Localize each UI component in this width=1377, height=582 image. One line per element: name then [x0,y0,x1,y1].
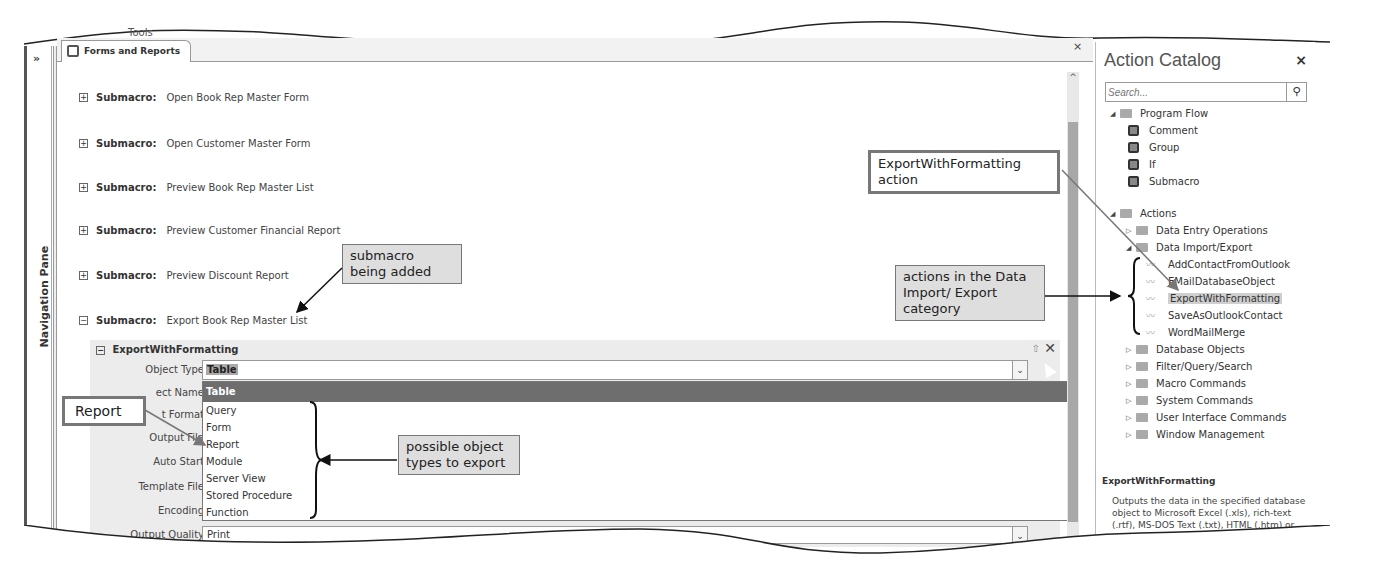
action-icon: 〰 [1146,262,1160,268]
tree-item-group[interactable]: Group [1128,142,1179,153]
search-icon[interactable]: ⚲ [1286,83,1306,101]
tree-item-if[interactable]: If [1128,159,1155,170]
folder-icon [1136,362,1148,371]
submacro-row[interactable]: + Submacro: Preview Book Rep Master List [79,182,314,193]
scrollbar-thumb[interactable] [1068,122,1078,522]
callout-possible-object-types: possible object types to export [398,435,520,475]
collapse-icon[interactable]: − [79,316,88,325]
vertical-scrollbar[interactable]: ^ [1067,72,1079,542]
object-type-dropdown-list[interactable]: Table Query Form Report Module Server Vi… [202,381,1068,521]
tree-item-submacro[interactable]: Submacro [1128,176,1199,187]
callout-submacro-being-added: submacro being added [342,244,462,284]
folder-icon [1136,379,1148,388]
dropdown-option-server-view[interactable]: Server View [203,470,1067,487]
expanded-triangle-icon[interactable]: ◢ [1126,244,1136,252]
tree-database-objects[interactable]: ▷ Database Objects [1126,344,1245,355]
collapsed-triangle-icon[interactable]: ▷ [1126,227,1136,235]
dropdown-option-report[interactable]: Report [203,436,1067,453]
submacro-name: Open Customer Master Form [166,138,310,149]
tree-program-flow[interactable]: ◢ Program Flow [1110,108,1208,119]
expanded-triangle-icon[interactable]: ◢ [1110,110,1120,118]
submacro-name: Preview Customer Financial Report [166,225,340,236]
navigation-pane-label[interactable]: Navigation Pane [38,258,51,348]
delete-action-icon[interactable]: ✕ [1044,340,1056,356]
tree-user-interface-commands[interactable]: ▷ User Interface Commands [1126,412,1287,423]
object-type-combo[interactable]: Table ⌄ [202,360,1028,380]
action-catalog-pane: Action Catalog × ⚲ ◢ Program Flow Commen… [1095,42,1315,542]
expand-icon[interactable]: + [79,93,88,102]
dropdown-option-stored-procedure[interactable]: Stored Procedure [203,487,1067,504]
dropdown-option-form[interactable]: Form [203,419,1067,436]
collapsed-triangle-icon[interactable]: ▷ [1126,363,1136,371]
tree-item-exportwithformatting[interactable]: 〰 ExportWithFormatting [1146,293,1282,304]
submacro-name: Export Book Rep Master List [166,315,307,326]
program-flow-icon [1128,159,1139,170]
expand-nav-pane-icon[interactable]: » [33,52,40,65]
output-quality-combo[interactable]: Print ⌄ [202,526,1028,544]
tree-item-emaildatabaseobject[interactable]: 〰 EMailDatabaseObject [1146,276,1275,287]
catalog-search-box[interactable]: ⚲ [1105,82,1307,102]
tab-forms-and-reports[interactable]: Forms and Reports [61,40,191,63]
folder-icon [1136,413,1148,422]
collapsed-triangle-icon[interactable]: ▷ [1126,346,1136,354]
collapsed-triangle-icon[interactable]: ▷ [1126,397,1136,405]
tree-item-saveasoutlookcontact[interactable]: 〰 SaveAsOutlookContact [1146,310,1282,321]
folder-icon [1120,109,1132,118]
action-name: ExportWithFormatting [112,344,238,355]
callout-report: Report [62,396,146,426]
submacro-row[interactable]: + Submacro: Preview Discount Report [79,270,289,281]
dropdown-option-table[interactable]: Table [203,382,1067,402]
catalog-search-input[interactable] [1108,85,1284,100]
tree-window-management[interactable]: ▷ Window Management [1126,429,1264,440]
chevron-down-icon[interactable]: ⌄ [1012,360,1028,380]
action-icon: 〰 [1146,330,1160,336]
submacro-row[interactable]: + Submacro: Open Customer Master Form [79,138,311,149]
collapsed-triangle-icon[interactable]: ▷ [1126,431,1136,439]
ribbon-tools-label: Tools [128,27,153,38]
tree-filter-query-search[interactable]: ▷ Filter/Query/Search [1126,361,1252,372]
expanded-triangle-icon[interactable]: ◢ [1110,210,1120,218]
dropdown-option-query[interactable]: Query [203,402,1067,419]
close-catalog-icon[interactable]: × [1295,52,1307,68]
expand-icon[interactable]: + [79,183,88,192]
action-icon: 〰 [1146,296,1160,302]
callout-exportwithformatting-action: ExportWithFormatting action [868,150,1060,194]
submacro-row[interactable]: + Submacro: Preview Customer Financial R… [79,225,340,236]
submacro-row[interactable]: + Submacro: Open Book Rep Master Form [79,92,309,103]
tree-macro-commands[interactable]: ▷ Macro Commands [1126,378,1246,389]
submacro-row-export[interactable]: − Submacro: Export Book Rep Master List [79,315,307,326]
submacro-name: Preview Book Rep Master List [166,182,313,193]
scroll-up-icon[interactable]: ^ [1067,72,1079,86]
dropdown-option-module[interactable]: Module [203,453,1067,470]
expand-icon[interactable]: + [79,139,88,148]
expand-icon[interactable]: + [79,271,88,280]
program-flow-icon [1128,142,1139,153]
program-flow-icon [1128,176,1139,187]
folder-icon [1120,209,1132,218]
tree-item-comment[interactable]: Comment [1128,125,1198,136]
chevron-down-icon[interactable]: ⌄ [1012,526,1028,546]
action-block-export-with-formatting[interactable]: − ExportWithFormatting ⇧ ✕ Object Type e… [90,340,1060,547]
close-document-icon[interactable]: × [1073,40,1082,53]
tree-system-commands[interactable]: ▷ System Commands [1126,395,1253,406]
action-icon: 〰 [1146,279,1160,285]
expand-icon[interactable]: + [79,226,88,235]
object-type-value: Table [206,364,238,375]
tree-item-wordmailmerge[interactable]: 〰 WordMailMerge [1146,327,1245,338]
navigation-pane[interactable]: » Navigation Pane [24,46,52,546]
tree-actions[interactable]: ◢ Actions [1110,208,1177,219]
tree-data-entry-operations[interactable]: ▷ Data Entry Operations [1126,225,1268,236]
submacro-keyword: Submacro: [96,315,156,326]
dropdown-option-function[interactable]: Function [203,504,1067,521]
tree-data-import-export[interactable]: ◢ Data Import/Export [1126,242,1252,253]
description-title: ExportWithFormatting [1102,476,1215,486]
action-header: − ExportWithFormatting [96,344,239,355]
program-flow-icon [1128,125,1139,136]
tree-item-addcontactfromoutlook[interactable]: 〰 AddContactFromOutlook [1146,259,1290,270]
collapsed-triangle-icon[interactable]: ▷ [1126,414,1136,422]
collapsed-triangle-icon[interactable]: ▷ [1126,380,1136,388]
folder-icon [1136,243,1148,252]
collapse-icon[interactable]: − [96,346,105,355]
move-up-icon[interactable]: ⇧ [1032,343,1040,354]
submacro-keyword: Submacro: [96,182,156,193]
